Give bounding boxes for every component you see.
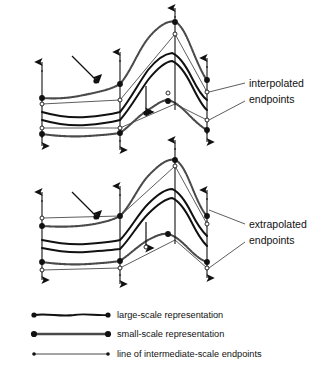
legend-endpoint-dot (31, 331, 37, 337)
legend-swatch-large-scale (34, 314, 108, 315)
large-scale-endpoint (172, 19, 178, 25)
intermediate-scale-endpoint (205, 90, 209, 94)
intermediate-scale-endpoint (40, 126, 44, 130)
large-scale-endpoint (39, 95, 45, 101)
large-scale-endpoint (39, 131, 45, 137)
large-scale-endpoint (117, 213, 123, 219)
intermediate-scale-endpoint (173, 32, 177, 36)
legend-endpoint-dot (106, 352, 110, 356)
intermediate-scale-endpoint (173, 164, 177, 168)
intermediate-scale-endpoint (205, 222, 209, 226)
intermediate-scale-endpoint (118, 266, 122, 270)
large-scale-endpoint (117, 258, 123, 264)
large-scale-endpoint (143, 110, 148, 115)
intermediate-scale-endpoint (144, 245, 148, 249)
legend-endpoint-dot (31, 312, 36, 317)
large-scale-endpoint (117, 130, 123, 136)
intermediate-scale-endpoint (40, 102, 44, 106)
intermediate-scale-endpoint (205, 118, 209, 122)
large-scale-endpoint (165, 98, 171, 104)
annotation-extrapolated-line1: extrapolated (249, 218, 307, 230)
legend-endpoint-dot (105, 312, 110, 317)
large-scale-endpoint (204, 127, 210, 133)
legend-endpoint-dot (32, 352, 36, 356)
large-scale-endpoint (117, 81, 123, 87)
large-scale-endpoint (172, 157, 178, 163)
large-scale-endpoint (93, 78, 98, 83)
multi-scale-endpoint-diagram: interpolated endpoints (0, 0, 327, 371)
intermediate-scale-endpoint (118, 126, 122, 130)
intermediate-scale-endpoint (40, 216, 44, 220)
annotation-interpolated-line2: endpoints (249, 93, 295, 105)
intermediate-scale-endpoint (166, 91, 170, 95)
legend-label-intermediate-scale: line of intermediate-scale endpoints (117, 349, 262, 359)
legend-label-small-scale: small-scale representation (117, 329, 224, 339)
legend-endpoint-dot (105, 331, 111, 337)
large-scale-endpoint (39, 223, 45, 229)
annotation-extrapolated-line2: endpoints (249, 234, 295, 246)
large-scale-endpoint (165, 231, 171, 237)
large-scale-endpoint (39, 259, 45, 265)
intermediate-scale-endpoint (205, 266, 209, 270)
intermediate-scale-endpoint (40, 268, 44, 272)
large-scale-endpoint (204, 77, 210, 83)
large-scale-endpoint (204, 213, 210, 219)
large-scale-endpoint (93, 214, 98, 219)
large-scale-endpoint (204, 259, 210, 265)
annotation-interpolated-line1: interpolated (249, 77, 304, 89)
legend-label-large-scale: large-scale representation (117, 310, 223, 320)
intermediate-scale-endpoint (118, 98, 122, 102)
